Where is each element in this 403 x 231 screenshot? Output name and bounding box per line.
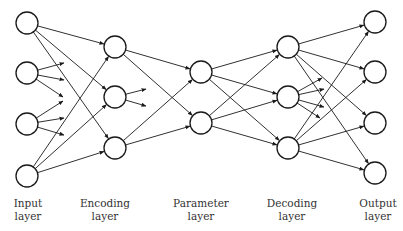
- decoding-layer-label-line2: layer: [279, 210, 307, 222]
- connections: [33, 25, 368, 172]
- autoencoder-diagram: InputlayerEncodinglayerParameterlayerDec…: [0, 0, 403, 231]
- partial-connection-arrow: [38, 63, 64, 70]
- input-layer-label-line2: layer: [15, 210, 43, 222]
- partial-connection-arrow: [38, 75, 64, 80]
- connection-arrow: [294, 31, 368, 138]
- output-node-3: [364, 112, 386, 134]
- connection-arrow: [212, 50, 277, 69]
- connection-arrow: [35, 105, 106, 169]
- input-node-1: [16, 12, 38, 34]
- partial-connection-arrow: [38, 118, 64, 122]
- connection-arrow: [212, 75, 277, 94]
- parameter-node-1: [190, 61, 212, 83]
- output-node-1: [364, 11, 386, 33]
- connection-arrow: [123, 54, 192, 115]
- partial-connection-arrow: [298, 78, 322, 92]
- connection-arrow: [126, 126, 190, 145]
- connection-arrow: [35, 30, 106, 90]
- decoding-node-2: [277, 86, 299, 108]
- decoding-layer-label: Decoding: [267, 197, 318, 209]
- input-node-4: [16, 165, 38, 187]
- encoding-node-1: [104, 36, 126, 58]
- connection-arrow: [296, 80, 366, 141]
- partial-connection-arrow: [126, 89, 146, 94]
- connection-arrow: [209, 55, 279, 116]
- input-node-2: [16, 62, 38, 84]
- connection-arrow: [212, 126, 277, 145]
- encoding-layer-label: Encoding: [80, 197, 130, 209]
- output-node-4: [364, 162, 386, 184]
- connection-arrow: [33, 57, 108, 167]
- partial-connection-arrow: [36, 101, 63, 118]
- input-node-3: [16, 113, 38, 135]
- layer-labels: InputlayerEncodinglayerParameterlayerDec…: [14, 197, 398, 222]
- partial-connection-arrow: [36, 79, 63, 97]
- decoding-node-1: [277, 36, 299, 58]
- encoding-layer-label-line2: layer: [92, 210, 120, 222]
- connection-arrow: [38, 26, 104, 44]
- connection-arrow: [126, 50, 190, 69]
- output-node-2: [364, 61, 386, 83]
- parameter-layer-label-line2: layer: [188, 210, 216, 222]
- connection-arrow: [299, 25, 364, 44]
- encoding-node-3: [104, 137, 126, 159]
- decoding-node-3: [277, 137, 299, 159]
- parameter-node-2: [190, 112, 212, 134]
- connection-arrow: [299, 151, 364, 170]
- partial-connection-arrow: [126, 100, 146, 106]
- output-layer-label: Output: [359, 197, 397, 209]
- encoding-node-2: [104, 86, 126, 108]
- parameter-layer-label: Parameter: [173, 197, 230, 209]
- connection-arrow: [37, 151, 104, 172]
- connection-arrow: [33, 32, 108, 139]
- output-layer-label-line2: layer: [365, 210, 393, 222]
- connection-arrow: [123, 80, 192, 141]
- connection-arrow: [212, 100, 277, 120]
- input-layer-label: Input: [14, 197, 43, 209]
